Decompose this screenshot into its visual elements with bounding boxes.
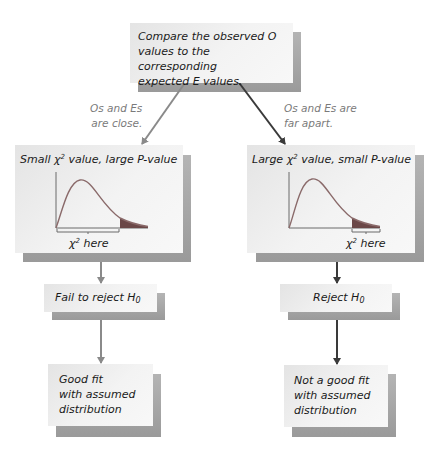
not-good-fit-line-1: Not a good fit <box>294 373 388 388</box>
chi-superscript: 2 <box>293 153 297 161</box>
here-word: here <box>83 237 108 250</box>
fail-to-reject-box: Fail to reject H0 <box>44 284 157 312</box>
small-chi-title: Small χ2 value, large P-value <box>20 150 177 167</box>
note-far-line-2: far apart. <box>284 116 357 131</box>
large-chi-title: Large χ2 value, small P-value <box>252 150 411 167</box>
note-close-line-1: Os and Es <box>90 101 142 116</box>
not-good-fit-line-2: with assumed <box>294 388 388 403</box>
note-close-line-2: are close. <box>90 116 142 131</box>
chi-superscript: 2 <box>353 237 357 245</box>
chi-superscript: 2 <box>76 237 80 245</box>
compare-line-2: values to the corresponding <box>138 44 285 74</box>
good-fit-line-3: distribution <box>59 402 153 417</box>
good-fit-line-1: Good fit <box>59 372 153 387</box>
reject-text: Reject H <box>313 291 359 304</box>
note-far-line-1: Os and Es are <box>284 101 357 116</box>
h0-subscript: 0 <box>135 296 140 305</box>
note-close: Os and Es are close. <box>90 101 142 131</box>
large-chi-square-box: Large χ2 value, small P-value χ2 here <box>247 145 415 253</box>
compare-line-3: expected E values. <box>138 74 285 89</box>
chi-superscript: 2 <box>61 153 65 161</box>
not-good-fit-box: Not a good fit with assumed distribution <box>284 365 388 427</box>
good-fit-line-2: with assumed <box>59 387 153 402</box>
chi-here-label: χ2 here <box>346 234 386 251</box>
not-good-fit-line-3: distribution <box>294 403 388 418</box>
chi-here-label: χ2 here <box>69 234 109 251</box>
here-word: here <box>360 237 385 250</box>
compare-box: Compare the observed O values to the cor… <box>130 23 293 83</box>
title-rest: value, small P-value <box>301 153 411 166</box>
h0-subscript: 0 <box>359 296 364 305</box>
title-rest: value, large P-value <box>69 153 178 166</box>
fail-to-reject-text: Fail to reject H <box>55 291 135 304</box>
title-word: Small <box>20 153 51 166</box>
good-fit-box: Good fit with assumed distribution <box>48 364 153 426</box>
reject-box: Reject H0 <box>280 284 392 312</box>
note-far-apart: Os and Es are far apart. <box>284 101 357 131</box>
small-chi-square-box: Small χ2 value, large P-value χ2 here <box>15 145 183 253</box>
title-word: Large <box>252 153 283 166</box>
compare-line-1: Compare the observed O <box>138 29 285 44</box>
